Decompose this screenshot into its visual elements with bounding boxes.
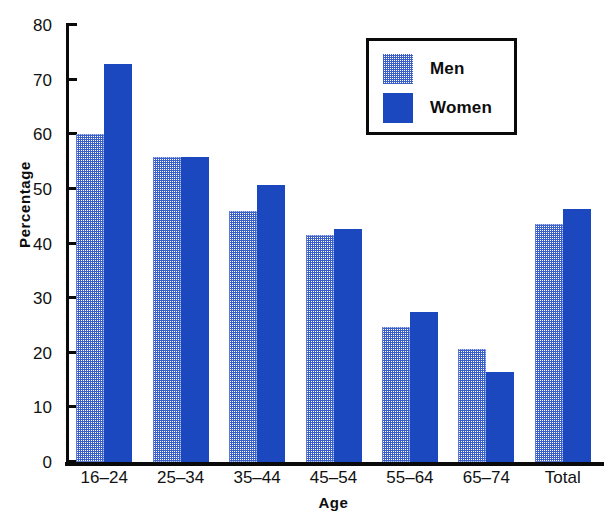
y-axis-tick-labels: 01020304050607080 [0, 25, 56, 462]
bar-women [104, 64, 132, 462]
bar-women [181, 157, 209, 462]
bar-men [76, 134, 104, 462]
bar-men [306, 235, 334, 462]
x-axis-tick-label: 35–44 [233, 468, 280, 488]
y-axis-tick-label: 70 [0, 71, 52, 88]
y-axis-tick-label: 60 [0, 126, 52, 143]
bar-men [229, 211, 257, 462]
legend-label-women: Women [430, 98, 492, 118]
bar-group [306, 25, 362, 462]
chart-legend: Men Women [366, 38, 517, 135]
x-axis-tick-label: 45–54 [310, 468, 357, 488]
bar-men [382, 327, 410, 462]
legend-swatch-women-icon [383, 93, 413, 123]
y-axis-tick-label: 20 [0, 344, 52, 361]
x-axis-tick-labels: 16–2425–3435–4445–5455–6465–74Total [66, 468, 601, 494]
bar-men [458, 349, 486, 462]
y-axis-tick-label: 0 [0, 454, 52, 471]
bar-group [76, 25, 132, 462]
bar-women [410, 312, 438, 462]
y-axis-tick-label: 10 [0, 399, 52, 416]
x-axis-tick-label: 55–64 [386, 468, 433, 488]
legend-item-women: Women [383, 93, 492, 123]
chart-title [0, 0, 607, 2]
x-axis-title: Age [66, 494, 601, 511]
bar-women [334, 229, 362, 462]
x-axis-tick-label: 16–24 [81, 468, 128, 488]
y-axis-tick-label: 30 [0, 290, 52, 307]
x-axis-tick-label: 65–74 [463, 468, 510, 488]
bar-men [535, 224, 563, 462]
bar-men [153, 157, 181, 462]
y-axis-tick-label: 40 [0, 235, 52, 252]
bar-women [563, 209, 591, 462]
legend-swatch-men-icon [383, 54, 413, 84]
bar-women [486, 372, 514, 462]
bar-group [229, 25, 285, 462]
bar-group [535, 25, 591, 462]
bar-women [257, 185, 285, 462]
y-axis-tick-label: 80 [0, 17, 52, 34]
bar-chart: Percentage 01020304050607080 16–2425–343… [0, 0, 607, 515]
legend-item-men: Men [383, 54, 465, 84]
x-axis-tick-label: Total [545, 468, 581, 488]
plot-area [66, 25, 601, 462]
bar-group [153, 25, 209, 462]
legend-label-men: Men [430, 59, 465, 79]
x-axis-line [65, 462, 604, 466]
x-axis-tick-label: 25–34 [157, 468, 204, 488]
y-axis-tick-label: 50 [0, 180, 52, 197]
